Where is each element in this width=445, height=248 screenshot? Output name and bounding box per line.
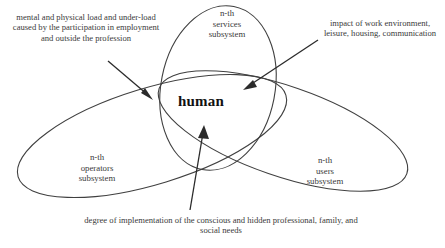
annotation-mental-load: mental and physical load and under-load … xyxy=(6,12,166,43)
label-operators-subsystem: n-th operators subsystem xyxy=(54,152,140,184)
label-users-subsystem: n-th users subsystem xyxy=(282,155,368,187)
label-services-subsystem: n-th services subsystem xyxy=(184,8,270,40)
ellipse-users-subsystem xyxy=(144,46,421,216)
label-human-center: human xyxy=(155,92,247,110)
arrow-mental-load xyxy=(108,61,153,100)
annotation-needs-degree: degree of implementation of the consciou… xyxy=(76,215,366,236)
ellipse-operators-subsystem xyxy=(4,49,300,223)
venn-diagram-canvas: mental and physical load and under-load … xyxy=(0,0,445,248)
annotation-work-impact: impact of work environment, leisure, hou… xyxy=(318,18,442,39)
